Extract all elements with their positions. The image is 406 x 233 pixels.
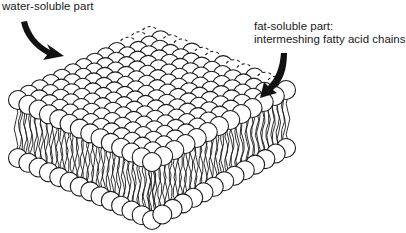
fatty-acid-chain: [183, 151, 186, 197]
lipid-head: [143, 153, 162, 172]
fatty-acid-chain: [209, 138, 212, 184]
water-soluble-arrow-icon: [21, 21, 64, 60]
lipid-head: [153, 205, 172, 224]
fatty-acid-chain: [286, 96, 290, 142]
fatty-acid-chain: [219, 132, 223, 178]
fatty-acid-chain: [250, 115, 253, 161]
fatty-acid-chain: [14, 104, 18, 154]
fatty-acid-chain: [225, 129, 228, 175]
fatty-acid-chain: [205, 136, 209, 186]
